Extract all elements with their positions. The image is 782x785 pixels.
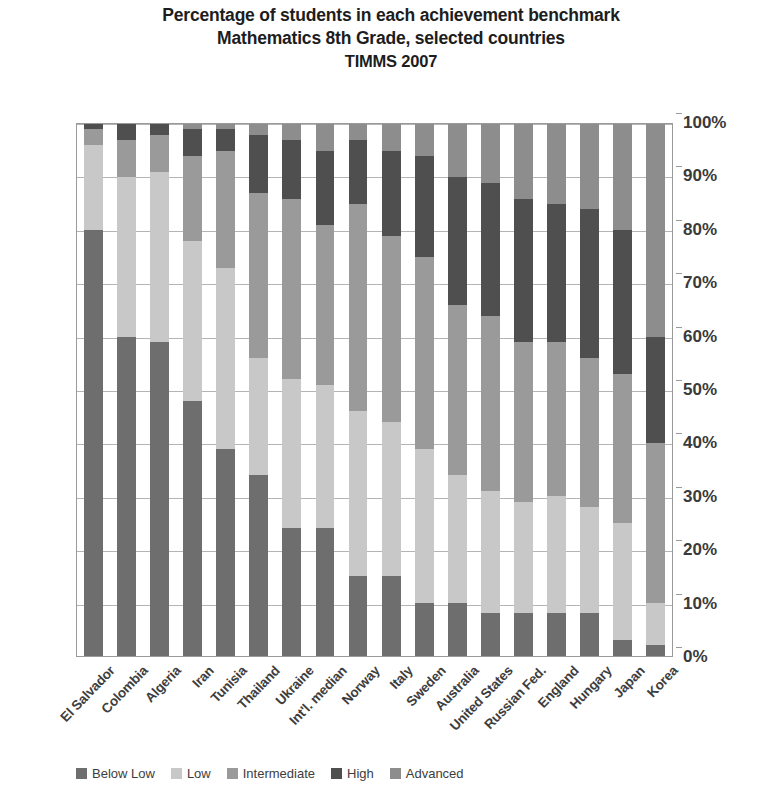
stacked-bar[interactable] — [150, 124, 169, 656]
stacked-bar[interactable] — [547, 124, 566, 656]
bar-segment-intermediate[interactable] — [282, 199, 301, 380]
bar-segment-low[interactable] — [117, 177, 136, 337]
bar-slot-norway[interactable] — [342, 124, 375, 656]
bar-slot-united-states[interactable] — [474, 124, 507, 656]
bar-segment-intermediate[interactable] — [316, 225, 335, 385]
bar-slot-iran[interactable] — [176, 124, 209, 656]
bar-segment-advanced[interactable] — [448, 124, 467, 177]
bar-segment-intermediate[interactable] — [481, 316, 500, 492]
bar-segment-below-low[interactable] — [216, 449, 235, 656]
bar-segment-advanced[interactable] — [481, 124, 500, 183]
legend-item-below-low[interactable]: Below Low — [76, 766, 155, 781]
bar-segment-intermediate[interactable] — [84, 129, 103, 145]
bar-segment-intermediate[interactable] — [415, 257, 434, 449]
bar-segment-low[interactable] — [382, 422, 401, 576]
bar-segment-advanced[interactable] — [580, 124, 599, 209]
bar-segment-high[interactable] — [415, 156, 434, 257]
bar-slot-australia[interactable] — [441, 124, 474, 656]
bar-slot-tunisia[interactable] — [209, 124, 242, 656]
bar-segment-low[interactable] — [84, 145, 103, 230]
bar-segment-high[interactable] — [150, 124, 169, 135]
bar-slot-hungary[interactable] — [573, 124, 606, 656]
bar-segment-low[interactable] — [448, 475, 467, 603]
bar-segment-low[interactable] — [150, 172, 169, 342]
bar-segment-low[interactable] — [580, 507, 599, 613]
bar-segment-low[interactable] — [183, 241, 202, 401]
bar-segment-below-low[interactable] — [282, 528, 301, 656]
bar-segment-below-low[interactable] — [84, 230, 103, 656]
bar-segment-intermediate[interactable] — [448, 305, 467, 475]
bar-segment-intermediate[interactable] — [547, 342, 566, 496]
bar-segment-intermediate[interactable] — [349, 204, 368, 411]
bar-slot-int-l-median[interactable] — [308, 124, 341, 656]
bar-segment-below-low[interactable] — [249, 475, 268, 656]
stacked-bar[interactable] — [349, 124, 368, 656]
stacked-bar[interactable] — [481, 124, 500, 656]
stacked-bar[interactable] — [249, 124, 268, 656]
bar-slot-ukraine[interactable] — [275, 124, 308, 656]
stacked-bar[interactable] — [415, 124, 434, 656]
bar-slot-korea[interactable] — [639, 124, 672, 656]
bar-segment-below-low[interactable] — [613, 640, 632, 656]
bar-segment-high[interactable] — [547, 204, 566, 342]
stacked-bar[interactable] — [646, 124, 665, 656]
bar-segment-advanced[interactable] — [382, 124, 401, 151]
bar-segment-advanced[interactable] — [349, 124, 368, 140]
bar-slot-italy[interactable] — [375, 124, 408, 656]
bar-segment-below-low[interactable] — [415, 603, 434, 656]
legend-item-high[interactable]: High — [331, 766, 374, 781]
stacked-bar[interactable] — [84, 124, 103, 656]
bar-segment-high[interactable] — [117, 124, 136, 140]
bar-segment-high[interactable] — [448, 177, 467, 305]
bar-segment-high[interactable] — [183, 129, 202, 156]
bar-segment-high[interactable] — [282, 140, 301, 199]
bar-segment-low[interactable] — [514, 502, 533, 614]
bar-segment-intermediate[interactable] — [216, 151, 235, 268]
bar-slot-england[interactable] — [540, 124, 573, 656]
bar-segment-low[interactable] — [646, 603, 665, 646]
bar-segment-high[interactable] — [382, 151, 401, 236]
stacked-bar[interactable] — [183, 124, 202, 656]
bar-segment-intermediate[interactable] — [117, 140, 136, 177]
stacked-bar[interactable] — [448, 124, 467, 656]
stacked-bar[interactable] — [216, 124, 235, 656]
bar-segment-intermediate[interactable] — [183, 156, 202, 241]
stacked-bar[interactable] — [580, 124, 599, 656]
bar-slot-japan[interactable] — [606, 124, 639, 656]
bar-segment-intermediate[interactable] — [580, 358, 599, 507]
stacked-bar[interactable] — [613, 124, 632, 656]
bar-segment-high[interactable] — [646, 337, 665, 443]
stacked-bar[interactable] — [382, 124, 401, 656]
bar-segment-advanced[interactable] — [282, 124, 301, 140]
bar-segment-low[interactable] — [415, 449, 434, 603]
bar-segment-low[interactable] — [613, 523, 632, 640]
bar-segment-high[interactable] — [580, 209, 599, 358]
bar-slot-algeria[interactable] — [143, 124, 176, 656]
bar-segment-high[interactable] — [316, 151, 335, 225]
bar-slot-russian-fed[interactable] — [507, 124, 540, 656]
bar-segment-below-low[interactable] — [547, 613, 566, 656]
legend-item-intermediate[interactable]: Intermediate — [227, 766, 315, 781]
bar-segment-low[interactable] — [316, 385, 335, 529]
bar-segment-advanced[interactable] — [415, 124, 434, 156]
legend-item-low[interactable]: Low — [171, 766, 211, 781]
bar-segment-intermediate[interactable] — [249, 193, 268, 358]
bar-segment-advanced[interactable] — [547, 124, 566, 204]
stacked-bar[interactable] — [117, 124, 136, 656]
bar-segment-below-low[interactable] — [117, 337, 136, 656]
bar-segment-high[interactable] — [481, 183, 500, 316]
bar-segment-below-low[interactable] — [150, 342, 169, 656]
bar-segment-intermediate[interactable] — [613, 374, 632, 523]
bar-segment-below-low[interactable] — [183, 401, 202, 656]
bar-segment-high[interactable] — [349, 140, 368, 204]
bar-segment-advanced[interactable] — [316, 124, 335, 151]
bar-segment-below-low[interactable] — [481, 613, 500, 656]
bar-segment-high[interactable] — [249, 135, 268, 194]
bar-segment-low[interactable] — [216, 268, 235, 449]
bar-segment-intermediate[interactable] — [514, 342, 533, 502]
bar-segment-high[interactable] — [613, 230, 632, 374]
bar-segment-below-low[interactable] — [448, 603, 467, 656]
bar-segment-intermediate[interactable] — [646, 443, 665, 603]
bar-segment-advanced[interactable] — [514, 124, 533, 198]
bar-segment-low[interactable] — [481, 491, 500, 613]
